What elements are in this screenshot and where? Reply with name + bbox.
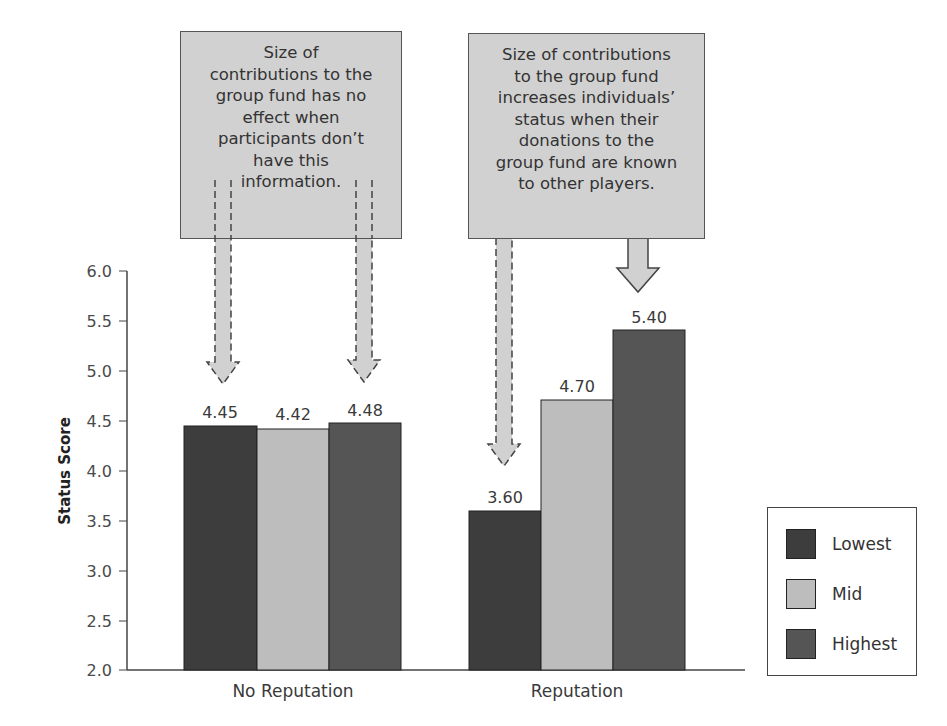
value-label: 3.60: [487, 488, 523, 507]
callout-reputation: Size of contributions to the group fund …: [468, 33, 705, 239]
y-tick-2-0: 2.0: [87, 661, 112, 680]
y-tick-3-0: 3.0: [87, 562, 112, 581]
callout-no-reputation: Size of contributions to the group fund …: [180, 31, 402, 239]
y-tick-6-0: 6.0: [87, 262, 112, 281]
legend-label: Lowest: [832, 534, 891, 554]
callout-line: effect when: [181, 107, 401, 129]
bar-reputation-lowest: [469, 511, 541, 670]
bar-reputation-mid: [541, 400, 613, 670]
legend-item-highest: Highest: [786, 629, 897, 659]
bar-no-reputation-highest: [329, 423, 401, 670]
bar-reputation-highest: [613, 330, 685, 670]
bar-no-reputation-mid: [257, 429, 329, 670]
callout-line: group fund has no: [181, 85, 401, 107]
value-label: 5.40: [631, 308, 667, 327]
callout-line: participants don’t: [181, 128, 401, 150]
chart-legend: Lowest Mid Highest: [767, 507, 917, 676]
value-label: 4.70: [559, 377, 595, 396]
y-axis-label: Status Score: [56, 417, 74, 525]
legend-label: Mid: [832, 584, 862, 604]
callout-line: group fund are known: [469, 152, 704, 174]
callout-line: contributions to the: [181, 64, 401, 86]
y-ticks: [119, 271, 127, 670]
callout-line: status when their: [469, 109, 704, 131]
y-tick-5-5: 5.5: [87, 312, 112, 331]
callout-line: information.: [181, 171, 401, 193]
legend-swatch-highest: [786, 629, 816, 659]
solid-arrow-icon: [617, 238, 659, 292]
callout-line: donations to the: [469, 130, 704, 152]
y-tick-2-5: 2.5: [87, 612, 112, 631]
dashed-arrow-icon: [488, 238, 520, 466]
callout-line: to other players.: [469, 173, 704, 195]
y-tick-4-5: 4.5: [87, 412, 112, 431]
callout-line: have this: [181, 150, 401, 172]
callout-line: increases individuals’: [469, 87, 704, 109]
bar-no-reputation-lowest: [184, 426, 257, 670]
value-label: 4.42: [275, 405, 311, 424]
y-tick-labels: 6.0 5.5 5.0 4.5 4.0 3.5 3.0 2.5 2.0: [87, 262, 112, 680]
callout-line: to the group fund: [469, 66, 704, 88]
legend-item-mid: Mid: [786, 579, 862, 609]
y-tick-5-0: 5.0: [87, 362, 112, 381]
legend-item-lowest: Lowest: [786, 529, 891, 559]
bar-group-no-reputation: 4.45 4.42 4.48: [184, 401, 401, 670]
legend-swatch-mid: [786, 579, 816, 609]
y-tick-4-0: 4.0: [87, 462, 112, 481]
category-label-reputation: Reputation: [531, 681, 624, 701]
legend-label: Highest: [832, 634, 897, 654]
category-label-no-reputation: No Reputation: [232, 681, 353, 701]
value-label: 4.48: [347, 401, 383, 420]
callout-line: Size of: [181, 42, 401, 64]
legend-swatch-lowest: [786, 529, 816, 559]
callout-line: Size of contributions: [469, 44, 704, 66]
y-tick-3-5: 3.5: [87, 512, 112, 531]
value-label: 4.45: [202, 403, 238, 422]
